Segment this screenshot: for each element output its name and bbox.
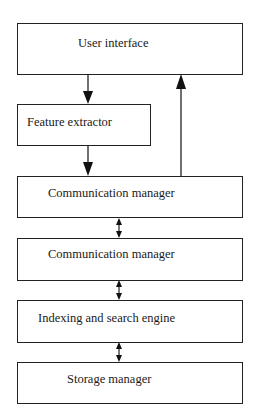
box-label: Feature extractor [27,115,112,130]
box-indexing-search-engine: Indexing and search engine [17,300,243,343]
arrow-feature-to-comm1 [83,145,93,176]
box-label: Indexing and search engine [38,311,175,326]
box-feature-extractor: Feature extractor [17,104,151,146]
arrow-indexing-storage [116,342,122,362]
box-label: Communication manager [48,186,175,201]
arrow-comm1-comm2 [116,218,122,238]
arrow-comm2-indexing [116,280,122,300]
box-communication-manager-2: Communication manager [17,238,243,281]
box-communication-manager-1: Communication manager [17,176,243,218]
arrow-ui-to-feature [83,74,93,104]
arrow-comm1-to-ui [176,74,186,176]
box-label: Communication manager [48,247,175,262]
box-storage-manager: Storage manager [17,362,243,404]
box-label: Storage manager [67,372,151,387]
box-user-interface: User interface [17,23,243,75]
box-label: User interface [78,36,148,51]
